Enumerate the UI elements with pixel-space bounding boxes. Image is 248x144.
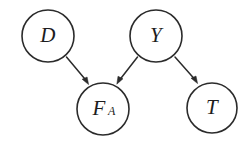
node-t-label: T (206, 95, 219, 119)
edge-y-to-t (175, 57, 198, 84)
edge-d-to-fa-arrowhead (82, 77, 89, 85)
edge-d-to-fa-line (67, 57, 88, 82)
node-fa-label: F (91, 96, 105, 120)
edge-y-to-t-line (175, 57, 196, 81)
node-t[interactable]: T (187, 83, 237, 133)
dag-diagram: D Y F A T (0, 0, 248, 144)
dag-canvas: D Y F A T (0, 0, 248, 144)
node-d-label: D (39, 23, 55, 47)
node-d[interactable]: D (22, 10, 74, 62)
edge-d-to-fa (67, 57, 89, 85)
node-fa[interactable]: F A (77, 83, 129, 135)
node-fa-label-subscript: A (107, 104, 116, 118)
node-y[interactable]: Y (130, 10, 182, 62)
edge-y-to-fa-line (119, 57, 138, 81)
edge-y-to-fa (117, 57, 138, 84)
